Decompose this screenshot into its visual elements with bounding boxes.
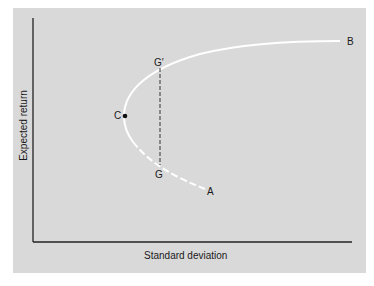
label-g-prime: G′ bbox=[154, 58, 164, 68]
chart-plot bbox=[0, 0, 374, 286]
inefficient-curve-dashed bbox=[133, 142, 205, 189]
point-c-dot bbox=[123, 114, 128, 119]
lower-arc-solid bbox=[124, 116, 133, 142]
efficient-frontier-curve bbox=[124, 41, 340, 116]
label-g: G bbox=[155, 170, 163, 180]
label-a: A bbox=[207, 187, 214, 197]
y-axis-label: Expected return bbox=[18, 81, 29, 171]
label-c: C bbox=[114, 111, 121, 121]
label-b: B bbox=[347, 37, 354, 47]
x-axis-label: Standard deviation bbox=[144, 251, 227, 261]
